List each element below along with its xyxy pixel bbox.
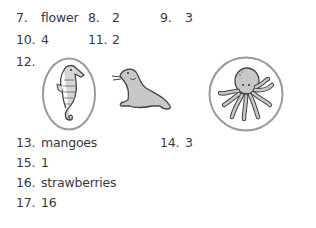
answer-text: 3 [185, 136, 193, 150]
question-number: 13. [16, 136, 35, 150]
answer-text: 4 [41, 33, 49, 47]
answer-text: strawberries [41, 176, 116, 190]
question-number: 14. [160, 136, 179, 150]
answer-text: mangoes [41, 136, 97, 150]
question-number: 11. [88, 33, 107, 47]
octopus-circled-icon [206, 55, 286, 133]
question-number: 17. [16, 196, 35, 210]
question-number: 10. [16, 33, 35, 47]
question-number: 15. [16, 156, 35, 170]
answer-text: 3 [185, 11, 193, 25]
question-number: 12. [16, 55, 35, 69]
question-number: 9. [160, 11, 172, 25]
answer-text: 1 [41, 156, 49, 170]
answer-text: 2 [112, 11, 120, 25]
answer-text: 2 [112, 33, 120, 47]
answer-text: flower [41, 11, 78, 25]
answer-text: 16 [41, 196, 57, 210]
question-number: 16. [16, 176, 35, 190]
question-number: 7. [16, 11, 28, 25]
seahorse-circled-icon [40, 56, 98, 132]
seal-icon [112, 64, 178, 112]
question-number: 8. [88, 11, 100, 25]
